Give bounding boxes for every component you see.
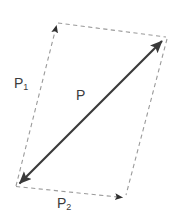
vector-label-p2-subscript: 2 [66, 202, 71, 212]
vector-label-p2: P2 [57, 196, 71, 210]
vector-diagram-canvas: P1 P P2 [0, 0, 179, 224]
vector-label-p1-subscript: 1 [23, 82, 28, 92]
parallelogram-right-edge [126, 39, 167, 195]
vector-p-line [20, 41, 163, 184]
vector-label-p2-base: P [57, 195, 66, 211]
vector-p1-line [16, 26, 57, 187]
vector-label-p1-base: P [14, 75, 23, 91]
vector-label-p1: P1 [14, 76, 28, 90]
vector-label-p-base: P [76, 87, 85, 103]
parallelogram-top-edge [58, 23, 166, 37]
vector-label-p: P [76, 88, 85, 102]
vector-parallelogram-svg [0, 0, 179, 224]
